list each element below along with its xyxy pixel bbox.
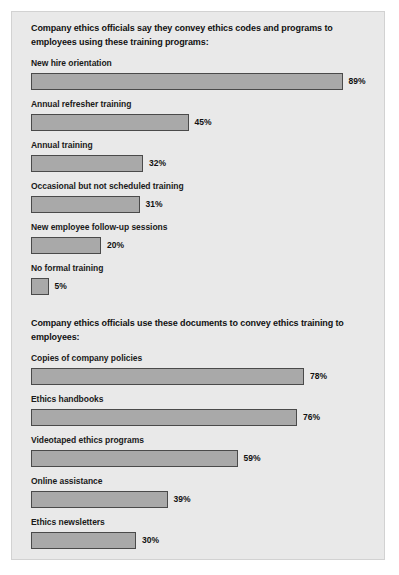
bar-group: New hire orientation89% <box>31 58 372 90</box>
bar-group: Ethics newsletters30% <box>31 517 372 549</box>
bar-row: 89% <box>31 72 372 90</box>
bar-group: Ethics handbooks76% <box>31 394 372 426</box>
bar-category-label: Annual refresher training <box>31 99 372 110</box>
bar-value-label: 20% <box>107 237 124 254</box>
bar-row: 32% <box>31 154 372 172</box>
bar-value-label: 76% <box>303 409 320 426</box>
bar-rect <box>31 532 136 549</box>
bar-group: No formal training5% <box>31 263 372 295</box>
bar-value-label: 45% <box>195 114 212 131</box>
bar-rect <box>31 155 143 172</box>
bar-category-label: Ethics newsletters <box>31 517 372 528</box>
bar-category-label: New employee follow-up sessions <box>31 222 372 233</box>
bar-rect <box>31 196 140 213</box>
bar-rect <box>31 237 101 254</box>
section-heading-documents: Company ethics officials use these docum… <box>31 317 349 344</box>
bar-list-documents: Copies of company policies78%Ethics hand… <box>31 353 372 549</box>
bar-value-label: 30% <box>142 532 159 549</box>
bar-rect <box>31 278 49 295</box>
bar-rect <box>31 73 343 90</box>
chart-page: Company ethics officials say they convey… <box>0 0 399 575</box>
bar-value-label: 59% <box>244 450 261 467</box>
bar-rect <box>31 450 238 467</box>
bar-category-label: New hire orientation <box>31 58 372 69</box>
bar-value-label: 5% <box>55 278 67 295</box>
bar-category-label: Annual training <box>31 140 372 151</box>
chart-section-documents: Company ethics officials use these docum… <box>31 317 372 549</box>
bar-rect <box>31 409 297 426</box>
bar-group: Online assistance39% <box>31 476 372 508</box>
bar-rect <box>31 491 168 508</box>
bar-value-label: 89% <box>349 73 366 90</box>
bar-rect <box>31 368 304 385</box>
bar-category-label: Copies of company policies <box>31 353 372 364</box>
bar-value-label: 39% <box>174 491 191 508</box>
bar-value-label: 31% <box>146 196 163 213</box>
bar-category-label: Online assistance <box>31 476 372 487</box>
bar-row: 76% <box>31 408 372 426</box>
chart-section-training-programs: Company ethics officials say they convey… <box>31 22 372 295</box>
bar-group: Annual refresher training45% <box>31 99 372 131</box>
bar-row: 39% <box>31 490 372 508</box>
bar-group: Annual training32% <box>31 140 372 172</box>
bar-value-label: 32% <box>149 155 166 172</box>
bar-rect <box>31 114 189 131</box>
section-heading-training-programs: Company ethics officials say they convey… <box>31 22 349 49</box>
bar-row: 20% <box>31 236 372 254</box>
bar-row: 78% <box>31 367 372 385</box>
bar-value-label: 78% <box>310 368 327 385</box>
bar-group: New employee follow-up sessions20% <box>31 222 372 254</box>
bar-category-label: No formal training <box>31 263 372 274</box>
chart-panel: Company ethics officials say they convey… <box>11 11 385 560</box>
bar-row: 45% <box>31 113 372 131</box>
bar-group: Videotaped ethics programs59% <box>31 435 372 467</box>
bar-category-label: Ethics handbooks <box>31 394 372 405</box>
bar-group: Occasional but not scheduled training31% <box>31 181 372 213</box>
section-divider-spacer <box>31 304 372 317</box>
bar-row: 30% <box>31 531 372 549</box>
bar-list-training-programs: New hire orientation89%Annual refresher … <box>31 58 372 295</box>
bar-category-label: Videotaped ethics programs <box>31 435 372 446</box>
bar-row: 31% <box>31 195 372 213</box>
bar-row: 5% <box>31 277 372 295</box>
bar-category-label: Occasional but not scheduled training <box>31 181 372 192</box>
bar-group: Copies of company policies78% <box>31 353 372 385</box>
bar-row: 59% <box>31 449 372 467</box>
